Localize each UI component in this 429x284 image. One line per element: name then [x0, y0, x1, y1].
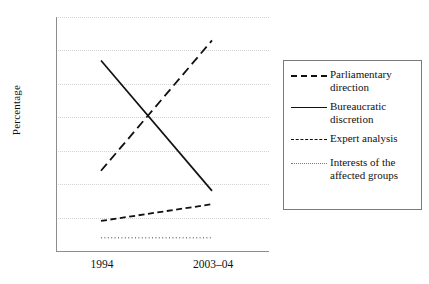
- legend-item-interests-affected-groups[interactable]: Interests of the affected groups: [290, 156, 415, 181]
- legend-label-line1: Parliamentary: [330, 68, 392, 80]
- legend-label-line1: Bureaucratic: [330, 100, 386, 112]
- legend-item-parliamentary-direction[interactable]: Parliamentary direction: [290, 68, 415, 93]
- legend-label-line2: affected groups: [330, 169, 398, 181]
- legend-label-parliamentary-direction: Parliamentary direction: [328, 68, 392, 93]
- legend-label-line1: Interests of the: [330, 156, 395, 168]
- legend-label-bureaucratic-discretion: Bureaucratic discretion: [328, 100, 386, 125]
- legend-item-bureaucratic-discretion[interactable]: Bureaucratic discretion: [290, 100, 415, 125]
- legend-swatch-long-dashed-icon: [290, 68, 328, 84]
- legend-label-interests-affected-groups: Interests of the affected groups: [328, 156, 398, 181]
- legend-label-line2: discretion: [330, 113, 373, 125]
- legend-label-expert-analysis: Expert analysis: [328, 132, 398, 145]
- series-line-2: [101, 204, 212, 221]
- legend-label-line1: Expert analysis: [330, 132, 398, 144]
- series-line-1: [101, 60, 212, 190]
- legend-swatch-dotted-icon: [290, 156, 328, 172]
- legend-swatch-dashed-icon: [290, 132, 328, 148]
- legend-label-line2: direction: [330, 81, 369, 93]
- series-line-0: [101, 40, 212, 170]
- legend-swatch-solid-icon: [290, 100, 328, 116]
- legend-item-expert-analysis[interactable]: Expert analysis: [290, 132, 415, 149]
- chart-legend: Parliamentary direction Bureaucratic dis…: [283, 60, 422, 210]
